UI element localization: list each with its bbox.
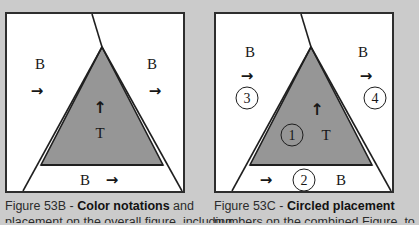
- label-center-t-53b: T: [95, 126, 104, 141]
- caption-suffix-53b: and: [170, 199, 194, 213]
- label-left-b-53b: B: [35, 57, 45, 72]
- callout-circle-4: 4: [364, 87, 387, 110]
- caption-prefix-53b: Figure 53B -: [5, 199, 77, 213]
- figure-caption-53b: Figure 53B - Color notations and placeme…: [5, 199, 232, 223]
- triangle-apex-extension: [92, 14, 102, 47]
- figure-panel-53c: B → B → ↑ T B → 1 2 3 4: [214, 12, 394, 193]
- label-left-arrow-53c: →: [241, 69, 254, 84]
- label-right-b-53c: B: [358, 45, 368, 60]
- figure-page: B → B → ↑ T B → B → B → ↑ T B → 1 2 3 4: [0, 0, 419, 225]
- callout-circle-1: 1: [281, 124, 304, 147]
- triangle-apex-extension: [301, 14, 311, 47]
- label-right-arrow-53c: →: [360, 69, 373, 84]
- caption-prefix-53c: Figure 53C -: [214, 199, 287, 213]
- label-bottom-arrow-53c: →: [260, 173, 273, 188]
- callout-circle-2: 2: [293, 169, 316, 192]
- caption-line2-53b: placement on the overall figure, includi…: [5, 215, 232, 223]
- figure-caption-53c: Figure 53C - Circled placement numbers o…: [214, 199, 415, 223]
- label-center-t-53c: T: [321, 128, 330, 143]
- label-right-b-53b: B: [147, 57, 157, 72]
- label-left-b-53c: B: [245, 45, 255, 60]
- label-center-up-arrow-53c: ↑: [310, 102, 323, 118]
- label-center-up-arrow-53b: ↑: [93, 100, 106, 116]
- caption-bold-53b: Color notations: [77, 199, 169, 213]
- label-bottom-arrow-53b: →: [106, 173, 119, 188]
- figure-panel-53b: B → B → ↑ T B →: [5, 12, 185, 193]
- caption-line2-53c: numbers on the combined Figure, to: [214, 215, 415, 223]
- caption-bold-53c: Circled placement: [287, 199, 395, 213]
- label-right-arrow-53b: →: [149, 84, 162, 99]
- label-bottom-b-53b: B: [80, 173, 90, 188]
- callout-circle-3: 3: [236, 87, 259, 110]
- label-left-arrow-53b: →: [31, 84, 44, 99]
- label-bottom-b-53c: B: [336, 173, 346, 188]
